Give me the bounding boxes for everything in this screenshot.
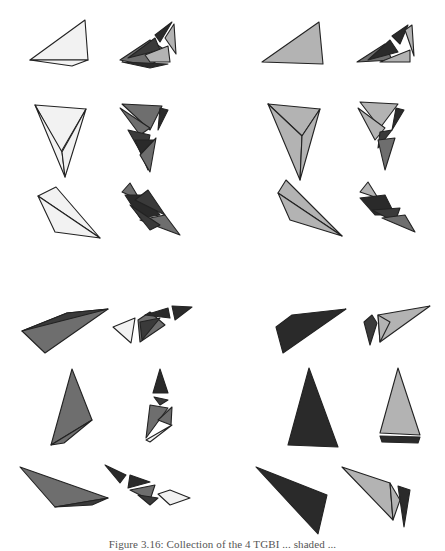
figure-caption: Figure 3.16: Collection of the 4 TGBI ..… bbox=[0, 538, 445, 550]
triangle-shape-f11a bbox=[105, 465, 126, 483]
triangle-shape-f3c bbox=[158, 108, 168, 130]
triangle-shape-f10b bbox=[380, 436, 420, 443]
triangle-shape-s12 bbox=[256, 467, 327, 534]
triangle-shape-s10 bbox=[288, 368, 338, 447]
triangle-shape-f4e bbox=[378, 138, 395, 170]
triangle-shape-s1 bbox=[30, 20, 88, 60]
triangle-shape-f9a bbox=[153, 369, 168, 393]
triangle-shape-f12a bbox=[342, 467, 393, 520]
triangle-shape-s1b bbox=[30, 60, 88, 66]
triangle-shape-f9b bbox=[154, 397, 168, 405]
triangle-shape-f4c bbox=[392, 108, 404, 130]
triangle-shape-f12c bbox=[398, 486, 410, 527]
triangle-shape-f8a bbox=[364, 315, 377, 345]
triangle-shape-f1f bbox=[122, 62, 168, 68]
triangle-shape-f11b bbox=[128, 475, 150, 488]
triangle-shape-f11d bbox=[138, 495, 158, 505]
figure-shape-collection bbox=[0, 0, 445, 551]
triangle-shape-s8 bbox=[276, 309, 346, 353]
triangle-shape-f11e bbox=[158, 490, 190, 505]
triangle-shape-s2 bbox=[262, 22, 323, 64]
triangle-shape-f7d bbox=[172, 306, 192, 320]
triangle-shape-f7a bbox=[113, 318, 135, 343]
triangle-shape-f10a bbox=[380, 368, 420, 435]
triangle-shape-f6d bbox=[382, 215, 415, 232]
triangle-shape-f2c bbox=[392, 25, 408, 44]
triangle-shape-f6a bbox=[360, 182, 378, 198]
triangle-shape-s6b bbox=[278, 193, 342, 236]
